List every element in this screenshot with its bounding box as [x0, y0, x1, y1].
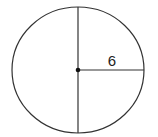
- circle-diagram: 6: [0, 0, 158, 137]
- center-point: [76, 68, 81, 73]
- radius-label: 6: [108, 52, 116, 69]
